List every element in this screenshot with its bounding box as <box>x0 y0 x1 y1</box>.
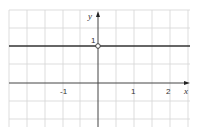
x-axis-label: x <box>183 86 188 96</box>
grid-lines <box>9 10 190 127</box>
x-tick-neg1: -1 <box>60 87 68 96</box>
y-tick-1: 1 <box>91 36 96 45</box>
x-tick-1: 1 <box>131 87 136 96</box>
y-axis-label: y <box>87 11 92 21</box>
x-tick-2: 2 <box>166 87 171 96</box>
x-axis-arrow-icon <box>184 81 190 85</box>
open-circle-icon <box>96 44 101 49</box>
y-axis-arrow-icon <box>96 11 100 17</box>
function-graph: y x 1 -1 1 2 <box>0 0 199 135</box>
